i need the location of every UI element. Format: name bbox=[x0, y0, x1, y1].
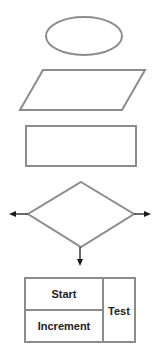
loop-increment-label: Increment bbox=[38, 320, 91, 332]
terminal-ellipse-shape bbox=[46, 17, 122, 55]
right-arrow-icon bbox=[134, 211, 151, 217]
loop-test-label: Test bbox=[108, 305, 130, 317]
process-rectangle-shape bbox=[26, 126, 136, 166]
decision-diamond-shape bbox=[28, 182, 134, 247]
flowchart-symbols-diagram: Start Increment Test bbox=[0, 0, 158, 362]
loop-start-label: Start bbox=[51, 288, 76, 300]
down-arrow-icon bbox=[77, 247, 83, 266]
loop-box: Start Increment Test bbox=[25, 278, 135, 342]
input-output-parallelogram-shape bbox=[20, 70, 145, 110]
left-arrow-icon bbox=[9, 211, 28, 217]
